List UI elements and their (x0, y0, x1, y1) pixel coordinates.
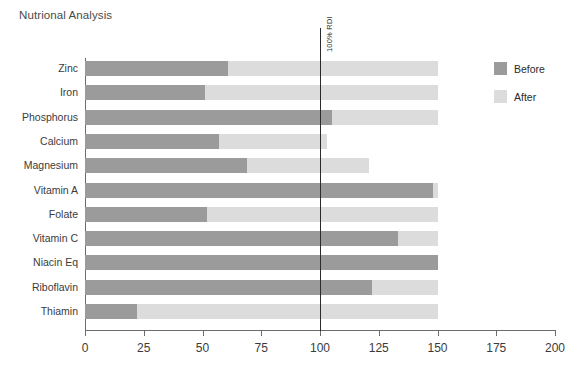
x-tick-label: 75 (241, 341, 281, 355)
category-label: Zinc (0, 61, 78, 76)
x-tick (203, 331, 204, 336)
x-tick-label: 200 (535, 341, 575, 355)
bar-before[interactable] (85, 231, 398, 246)
x-tick-label: 25 (124, 341, 164, 355)
bar-before[interactable] (85, 280, 372, 295)
bar-before[interactable] (85, 61, 228, 76)
bar-before[interactable] (85, 255, 438, 270)
category-label: Iron (0, 85, 78, 100)
category-label: Thiamin (0, 304, 78, 319)
x-tick-label: 100 (300, 341, 340, 355)
category-label: Riboflavin (0, 280, 78, 295)
x-tick (438, 331, 439, 336)
x-tick (555, 331, 556, 336)
legend-label: Before (514, 63, 545, 75)
category-label: Folate (0, 207, 78, 222)
legend-swatch-icon (494, 62, 507, 75)
x-tick (85, 331, 86, 336)
bar-before[interactable] (85, 134, 219, 149)
rdi-annotation-label: 100% RDI (325, 16, 334, 52)
bar-before[interactable] (85, 183, 433, 198)
x-tick (496, 331, 497, 336)
legend-item[interactable]: After (494, 90, 545, 103)
x-tick (379, 331, 380, 336)
x-tick-label: 50 (183, 341, 223, 355)
x-tick-label: 150 (418, 341, 458, 355)
chart-legend: BeforeAfter (494, 62, 545, 118)
bar-before[interactable] (85, 158, 247, 173)
x-tick-label: 125 (359, 341, 399, 355)
category-label: Vitamin C (0, 231, 78, 246)
category-label: Phosphorus (0, 110, 78, 125)
x-tick (144, 331, 145, 336)
nutrition-bar-chart: Nutrional Analysis ZincIronPhosphorusCal… (0, 0, 583, 374)
x-tick-label: 175 (476, 341, 516, 355)
chart-title: Nutrional Analysis (19, 9, 112, 21)
legend-swatch-icon (494, 90, 507, 103)
x-tick (320, 331, 321, 336)
bar-before[interactable] (85, 207, 207, 222)
bar-before[interactable] (85, 85, 205, 100)
bar-after[interactable] (85, 304, 438, 319)
legend-label: After (514, 91, 536, 103)
category-label: Magnesium (0, 158, 78, 173)
category-label: Vitamin A (0, 183, 78, 198)
bar-before[interactable] (85, 304, 137, 319)
x-tick (261, 331, 262, 336)
rdi-reference-line (320, 28, 321, 331)
legend-item[interactable]: Before (494, 62, 545, 75)
category-label: Calcium (0, 134, 78, 149)
x-tick-label: 0 (65, 341, 105, 355)
category-label: Niacin Eq (0, 255, 78, 270)
bar-before[interactable] (85, 110, 332, 125)
